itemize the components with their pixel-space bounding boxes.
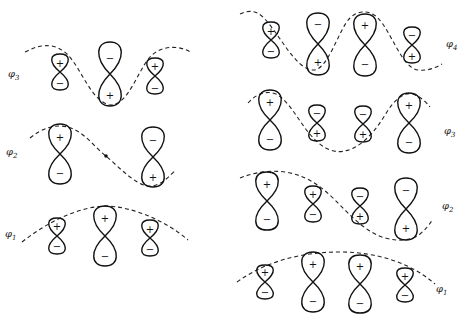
right-phi1-level bbox=[237, 252, 435, 313]
sign: + bbox=[314, 57, 322, 68]
sign: + bbox=[56, 58, 64, 69]
left-phi1-label: φ1 bbox=[5, 228, 16, 242]
left-phi2-label: φ2 bbox=[6, 146, 17, 160]
sign: + bbox=[106, 90, 114, 101]
sign: − bbox=[356, 298, 364, 309]
sign: − bbox=[261, 287, 269, 298]
sign: + bbox=[151, 61, 159, 72]
sign: − bbox=[56, 168, 64, 179]
sign: − bbox=[402, 185, 410, 196]
sign: − bbox=[106, 53, 114, 64]
sign: + bbox=[261, 267, 269, 278]
sign: − bbox=[401, 290, 409, 301]
sign: + bbox=[56, 132, 64, 143]
right-phi3-level bbox=[248, 90, 430, 153]
right-phi2-label: φ2 bbox=[442, 200, 453, 214]
sign: − bbox=[359, 109, 367, 120]
left-phi3-label: φ3 bbox=[8, 68, 19, 82]
sign: − bbox=[313, 108, 321, 119]
right-phi1-label: φ1 bbox=[436, 283, 447, 297]
sign: − bbox=[408, 30, 416, 41]
sign: + bbox=[359, 129, 367, 140]
sign: − bbox=[314, 19, 322, 30]
sign: + bbox=[361, 20, 369, 31]
sign: + bbox=[313, 128, 321, 139]
sign: + bbox=[309, 189, 317, 200]
sign: − bbox=[149, 135, 157, 146]
sign: + bbox=[405, 100, 413, 111]
sign: − bbox=[101, 251, 109, 262]
sign: + bbox=[146, 224, 154, 235]
sign: + bbox=[401, 271, 409, 282]
sign: − bbox=[405, 137, 413, 148]
sign: + bbox=[53, 221, 61, 232]
sign: + bbox=[149, 172, 157, 183]
sign: − bbox=[151, 83, 159, 94]
sign: − bbox=[309, 209, 317, 220]
sign: + bbox=[101, 213, 109, 224]
sign: + bbox=[263, 179, 271, 190]
right-phi3-label: φ3 bbox=[444, 125, 455, 139]
sign: − bbox=[267, 46, 275, 57]
node-dot bbox=[104, 154, 108, 158]
right-phi4-label: φ4 bbox=[446, 38, 457, 52]
sign: − bbox=[146, 244, 154, 255]
sign: − bbox=[53, 241, 61, 252]
sign: − bbox=[356, 191, 364, 202]
right-phi4-level bbox=[240, 11, 442, 76]
sign: − bbox=[361, 59, 369, 70]
sign: + bbox=[267, 26, 275, 37]
orbital-diagram: + − − + + − + − − + + − + − + − + − − + … bbox=[0, 0, 464, 318]
sign: + bbox=[408, 51, 416, 62]
sign: − bbox=[266, 134, 274, 145]
sign: + bbox=[356, 211, 364, 222]
sign: + bbox=[402, 223, 410, 234]
sign: − bbox=[56, 78, 64, 89]
sign: + bbox=[266, 97, 274, 108]
sign: − bbox=[263, 214, 271, 225]
sign: − bbox=[309, 296, 317, 307]
right-phi3-wave bbox=[248, 92, 430, 151]
sign: + bbox=[309, 259, 317, 270]
sign: + bbox=[356, 261, 364, 272]
